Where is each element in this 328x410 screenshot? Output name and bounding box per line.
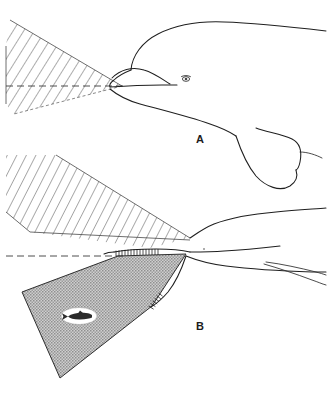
figure-root: A — [0, 0, 328, 410]
echolocation-figure: A — [0, 0, 328, 410]
prey-fish-target — [61, 308, 97, 325]
reference-dot-b — [203, 248, 205, 250]
panel-label-a: A — [196, 133, 204, 145]
panel-label-b: B — [196, 320, 204, 332]
